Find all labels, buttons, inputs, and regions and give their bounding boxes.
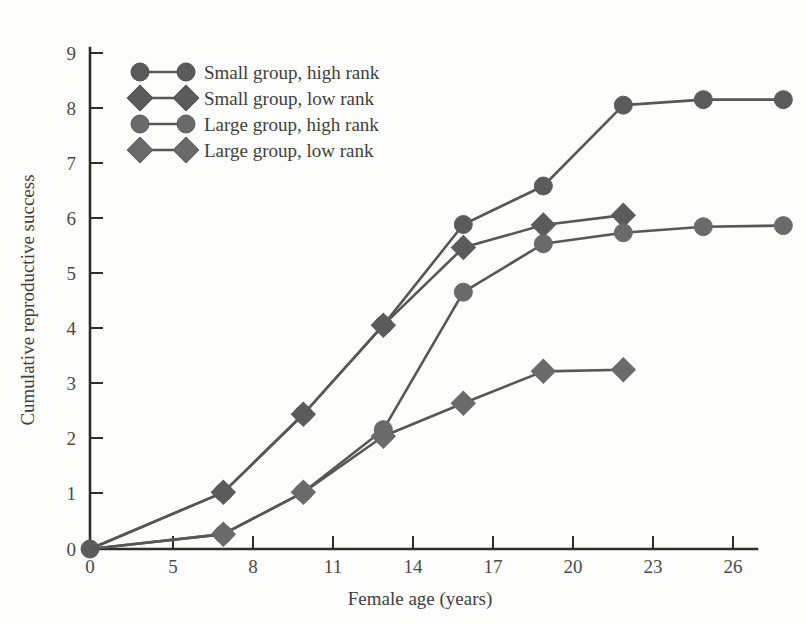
line-chart: 9 8 7 6 5 4 3 2 1 0 0 5 8 1: [0, 0, 806, 624]
data-point-diamond: [451, 391, 475, 415]
y-tick-label: 0: [67, 539, 77, 560]
legend-item-small-group-low-rank[interactable]: Small group, low rank: [127, 85, 374, 110]
x-tick-label: 5: [168, 556, 178, 577]
data-point-diamond: [531, 359, 555, 383]
legend-circle-icon: [177, 63, 195, 81]
legend-circle-icon: [177, 115, 195, 133]
data-point-circle: [694, 218, 712, 236]
legend-label: Small group, high rank: [204, 62, 380, 83]
legend-item-large-group-low-rank[interactable]: Large group, low rank: [127, 137, 374, 162]
y-tick-label: 7: [67, 153, 77, 174]
x-axis-title: Female age (years): [348, 588, 493, 610]
legend-item-small-group-high-rank[interactable]: Small group, high rank: [131, 62, 380, 83]
y-tick-label: 6: [67, 208, 77, 229]
x-tick-label: 8: [248, 556, 258, 577]
x-tick-label: 20: [564, 556, 583, 577]
data-point-circle: [534, 235, 552, 253]
legend-diamond-icon: [173, 137, 198, 162]
data-point-diamond: [211, 522, 235, 546]
data-point-diamond: [531, 213, 555, 237]
y-tick-label: 5: [67, 263, 77, 284]
data-point-circle: [614, 96, 632, 114]
series-large-group-low-rank: [90, 358, 635, 549]
y-tick-label: 1: [67, 483, 77, 504]
series-line: [90, 100, 783, 549]
legend-label: Large group, low rank: [204, 140, 374, 161]
y-tick-label: 4: [67, 318, 77, 339]
data-point-diamond: [611, 358, 635, 382]
data-point-circle: [454, 283, 472, 301]
series-large-group-high-rank: [90, 217, 792, 549]
x-tick-label: 26: [724, 556, 743, 577]
x-tick-label: 11: [324, 556, 342, 577]
legend-label: Small group, low rank: [204, 88, 374, 109]
y-axis-ticks: [90, 53, 103, 493]
legend-label: Large group, high rank: [204, 114, 379, 135]
x-tick-label: 17: [484, 556, 503, 577]
x-tick-label: 14: [404, 556, 424, 577]
data-point-circle: [774, 91, 792, 109]
x-axis-tick-labels: 0 5 8 11 14 17 20 23 26: [85, 556, 742, 577]
legend-diamond-icon: [173, 85, 198, 110]
y-axis-tick-labels: 9 8 7 6 5 4 3 2 1 0: [67, 43, 77, 560]
y-tick-label: 3: [67, 373, 77, 394]
data-point-diamond: [291, 480, 315, 504]
legend-diamond-icon: [127, 85, 152, 110]
legend-circle-icon: [131, 63, 149, 81]
data-point-circle: [534, 177, 552, 195]
data-point-circle: [614, 224, 632, 242]
legend-item-large-group-high-rank[interactable]: Large group, high rank: [131, 114, 379, 135]
legend-diamond-icon: [127, 137, 152, 162]
x-tick-label: 0: [85, 556, 95, 577]
x-tick-label: 23: [644, 556, 663, 577]
data-point-circle: [694, 91, 712, 109]
y-tick-label: 9: [67, 43, 77, 64]
series-line: [90, 370, 623, 549]
legend-circle-icon: [131, 115, 149, 133]
y-tick-label: 2: [67, 428, 77, 449]
y-tick-label: 8: [67, 98, 77, 119]
figure-container: 9 8 7 6 5 4 3 2 1 0 0 5 8 1: [0, 0, 806, 624]
data-point-circle: [454, 216, 472, 234]
legend: Small group, high rank Small group, low …: [127, 62, 379, 163]
data-point-circle: [774, 217, 792, 235]
y-axis-title: Cumulative reproductive success: [17, 174, 38, 425]
series-small-group-low-rank: [90, 203, 635, 549]
